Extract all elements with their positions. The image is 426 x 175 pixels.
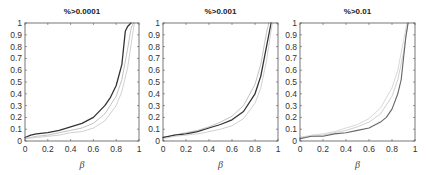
y-tick-label: 0.9 [10,30,22,40]
y-tick-label: 0.3 [10,101,22,111]
x-tick-label: 0.4 [203,144,215,154]
y-tick-label: 0 [17,136,22,146]
y-tick-label: 0.3 [285,101,297,111]
y-tick-label: 0.7 [10,53,22,63]
y-tick-label: 0.2 [148,112,160,122]
x-tick-label: 1 [413,144,418,154]
series-line-band-upper [163,23,269,138]
x-tick-label: 0 [298,144,303,154]
x-axis-label: β [354,159,360,170]
series-line-band-lower [300,23,408,138]
y-tick-label: 0.6 [10,65,22,75]
x-tick-label: 0.8 [249,144,261,154]
x-tick-label: 0.2 [180,144,192,154]
x-tick-label: 0.2 [42,144,54,154]
plot-panel-3: 00.10.20.30.40.50.60.70.80.9100.20.40.60… [285,7,417,170]
plot-panel-2: 00.10.20.30.40.50.60.70.80.9100.20.40.60… [148,7,280,170]
chart-title: %>0.0001 [64,7,101,16]
y-tick-label: 0.8 [10,42,22,52]
y-tick-label: 0.1 [10,124,22,134]
y-tick-label: 0.2 [285,112,297,122]
x-tick-label: 0.6 [363,144,375,154]
chart-title: %>0.001 [205,7,237,16]
y-tick-label: 0.8 [285,42,297,52]
y-tick-label: 0.9 [285,30,297,40]
y-tick-label: 0.4 [10,89,22,99]
series-line-main [163,23,271,138]
y-tick-label: 0.9 [148,30,160,40]
x-axis-label: β [217,159,223,170]
y-tick-label: 0.5 [285,77,297,87]
y-tick-label: 0 [292,136,297,146]
series-line-main [25,23,131,138]
y-tick-label: 0.8 [148,42,160,52]
y-tick-label: 0.6 [148,65,160,75]
y-tick-label: 0.1 [285,124,297,134]
y-tick-label: 0.4 [148,89,160,99]
y-tick-label: 0.2 [10,112,22,122]
y-tick-label: 0.5 [148,77,160,87]
x-tick-label: 0 [161,144,166,154]
figure: 00.10.20.30.40.50.60.70.80.9100.20.40.60… [0,0,426,175]
plot-panel-1: 00.10.20.30.40.50.60.70.80.9100.20.40.60… [10,7,141,170]
y-tick-label: 1 [155,18,160,28]
y-tick-label: 0.3 [148,101,160,111]
y-tick-label: 0.7 [285,53,297,63]
y-tick-label: 0.4 [285,89,297,99]
series-line-band-upper [300,23,407,138]
series-line-main [300,23,408,139]
x-tick-label: 0.8 [110,144,122,154]
x-tick-label: 0.2 [317,144,329,154]
x-axis-label: β [79,159,85,170]
x-tick-label: 0 [23,144,28,154]
y-tick-label: 0.6 [285,65,297,75]
axes-frame [163,23,278,141]
y-tick-label: 1 [17,18,22,28]
x-tick-label: 0.6 [226,144,238,154]
y-tick-label: 0 [155,136,160,146]
y-tick-label: 1 [292,18,297,28]
y-tick-label: 0.7 [148,53,160,63]
x-tick-label: 1 [137,144,142,154]
chart-title: %>0.01 [344,7,372,16]
x-tick-label: 0.6 [87,144,99,154]
y-tick-label: 0.1 [148,124,160,134]
x-tick-label: 0.4 [340,144,352,154]
axes-frame [300,23,415,141]
y-tick-label: 0.5 [10,77,22,87]
x-tick-label: 0.8 [386,144,398,154]
x-tick-label: 1 [276,144,281,154]
x-tick-label: 0.4 [65,144,77,154]
